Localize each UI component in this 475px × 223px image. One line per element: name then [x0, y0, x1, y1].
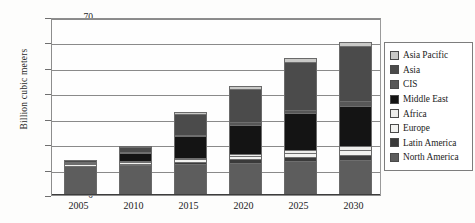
bar-segment[interactable]: [120, 147, 151, 148]
legend-item[interactable]: Middle East: [390, 92, 468, 107]
bar-segment[interactable]: [175, 160, 206, 163]
bar-segment[interactable]: [120, 154, 151, 162]
chart-figure: Billion cubic meters 706050403020100 200…: [0, 0, 475, 223]
x-axis-tick-label: 2015: [161, 200, 216, 211]
bar-segment[interactable]: [65, 160, 96, 161]
legend-swatch-icon: [390, 65, 399, 74]
bar-slot: [217, 19, 272, 195]
bar-segment[interactable]: [175, 115, 206, 135]
bar-slot: [52, 19, 107, 195]
legend-label: Latin America: [403, 138, 456, 148]
bar-segment[interactable]: [340, 47, 371, 103]
bar-segment[interactable]: [285, 63, 316, 111]
plot-area: [51, 18, 381, 196]
bar-slot: [107, 19, 162, 195]
legend-label: Asia Pacific: [403, 50, 448, 60]
legend-item[interactable]: North America: [390, 150, 468, 165]
bar-slot: [327, 19, 382, 195]
x-axis-tick-label: 2005: [51, 200, 106, 211]
bar-segment[interactable]: [175, 159, 206, 160]
stacked-bar[interactable]: [119, 146, 152, 195]
stacked-bar[interactable]: [284, 58, 317, 195]
legend-label: Africa: [403, 109, 427, 119]
bar-segment[interactable]: [230, 126, 261, 155]
legend-swatch-icon: [390, 95, 399, 104]
bar-segment[interactable]: [230, 164, 261, 195]
bar-segment[interactable]: [65, 167, 96, 194]
bar-segment[interactable]: [340, 147, 371, 151]
legend: Asia PacificAsiaCISMiddle EastAfricaEuro…: [384, 42, 473, 171]
bar-segment[interactable]: [340, 102, 371, 106]
bar-segment[interactable]: [175, 136, 206, 138]
bar-segment[interactable]: [230, 157, 261, 160]
bar-segment[interactable]: [285, 158, 316, 162]
bar-segment[interactable]: [175, 163, 206, 165]
legend-label: North America: [403, 152, 459, 162]
legend-item[interactable]: Asia Pacific: [390, 48, 468, 63]
bar-segment[interactable]: [175, 165, 206, 194]
bar-segment[interactable]: [285, 114, 316, 151]
bar-segment[interactable]: [230, 87, 261, 90]
stacked-bar[interactable]: [64, 160, 97, 195]
bar-segment[interactable]: [230, 160, 261, 163]
bar-segment[interactable]: [175, 113, 206, 116]
legend-item[interactable]: Latin America: [390, 136, 468, 151]
bar-segment[interactable]: [285, 151, 316, 154]
bar-segment[interactable]: [175, 137, 206, 159]
bar-segment[interactable]: [230, 123, 261, 126]
legend-swatch-icon: [390, 153, 399, 162]
legend-swatch-icon: [390, 138, 399, 147]
bar-segment[interactable]: [120, 166, 151, 194]
bar-segment[interactable]: [285, 59, 316, 63]
bar-segment[interactable]: [65, 165, 96, 167]
bar-segment[interactable]: [65, 164, 96, 165]
bar-segment[interactable]: [65, 161, 96, 163]
bar-segment[interactable]: [230, 155, 261, 157]
bar-segment[interactable]: [340, 151, 371, 156]
x-axis-tick-label: 2010: [106, 200, 161, 211]
bar-segment[interactable]: [120, 165, 151, 166]
legend-swatch-icon: [390, 51, 399, 60]
legend-item[interactable]: Europe: [390, 121, 468, 136]
legend-swatch-icon: [390, 109, 399, 118]
y-axis-tick-mark: [45, 196, 51, 197]
bar-segment[interactable]: [120, 148, 151, 153]
bar-segment[interactable]: [340, 161, 371, 194]
legend-item[interactable]: Africa: [390, 106, 468, 121]
bar-segment[interactable]: [120, 153, 151, 154]
bar-segment[interactable]: [285, 154, 316, 158]
legend-item[interactable]: Asia: [390, 63, 468, 78]
bar-slot: [162, 19, 217, 195]
x-axis-tick-label: 2020: [216, 200, 271, 211]
bar-segment[interactable]: [340, 107, 371, 148]
legend-label: Europe: [403, 123, 430, 133]
legend-swatch-icon: [390, 80, 399, 89]
bar-slot: [272, 19, 327, 195]
stacked-bar[interactable]: [229, 86, 262, 195]
y-axis-title: Billion cubic meters: [19, 9, 29, 169]
legend-swatch-icon: [390, 124, 399, 133]
bar-segment[interactable]: [340, 156, 371, 161]
legend-label: Middle East: [403, 94, 448, 104]
bar-segment[interactable]: [285, 162, 316, 194]
legend-item[interactable]: CIS: [390, 77, 468, 92]
bar-segment[interactable]: [340, 43, 371, 47]
legend-label: Asia: [403, 65, 420, 75]
bar-segment[interactable]: [285, 111, 316, 114]
x-axis-tick-label: 2030: [326, 200, 381, 211]
bar-segment[interactable]: [120, 163, 151, 165]
bar-segment[interactable]: [230, 90, 261, 123]
legend-label: CIS: [403, 79, 417, 89]
stacked-bar[interactable]: [339, 42, 372, 195]
x-axis-tick-label: 2025: [271, 200, 326, 211]
axis-baseline: [52, 194, 380, 195]
stacked-bar[interactable]: [174, 112, 207, 195]
